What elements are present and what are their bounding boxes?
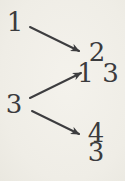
mapping-diagram: 1 3 2 1 3 4 3 (0, 0, 125, 181)
left-node-3: 3 (6, 91, 23, 117)
right-node-3: 3 (88, 139, 105, 165)
arrow-3-to-4 (32, 111, 79, 134)
arrow-1-to-2 (30, 27, 79, 51)
left-node-1: 1 (7, 9, 24, 35)
arrow-3-to-1-3 (30, 73, 81, 98)
right-node-1-3: 1 3 (77, 60, 118, 86)
